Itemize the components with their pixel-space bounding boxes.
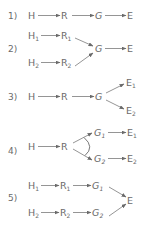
node-r: R bbox=[61, 91, 68, 102]
node-r1: R1 bbox=[61, 30, 72, 42]
node-h2: H2 bbox=[28, 207, 39, 219]
node-r2: R2 bbox=[60, 207, 71, 219]
node-g2: G2 bbox=[94, 153, 105, 165]
node-r: R bbox=[61, 10, 68, 21]
node-e: E bbox=[127, 10, 133, 21]
arrow-g1-e bbox=[109, 187, 126, 197]
node-r1: R1 bbox=[60, 180, 71, 192]
node-h2: H2 bbox=[28, 57, 39, 69]
node-r2: R2 bbox=[61, 57, 72, 69]
node-g: G bbox=[95, 10, 102, 21]
node-h: H bbox=[28, 10, 35, 21]
node-e1: E1 bbox=[127, 127, 137, 139]
row-2: 2) H1 R1 H2 R2 G E bbox=[8, 30, 133, 69]
node-g1: G1 bbox=[92, 180, 103, 192]
arrow-g-e2 bbox=[106, 100, 124, 109]
node-h: H bbox=[28, 91, 35, 102]
row-label: 4) bbox=[8, 146, 17, 156]
arrow-r2-g bbox=[75, 53, 93, 66]
row-3: 3) H R G E1 E2 bbox=[8, 77, 136, 117]
node-h: H bbox=[28, 141, 35, 152]
node-g1: G1 bbox=[94, 127, 105, 139]
node-g: G bbox=[95, 43, 102, 54]
node-g: G bbox=[95, 91, 102, 102]
row-label: 2) bbox=[8, 44, 17, 54]
arrow-g-e1 bbox=[106, 84, 124, 93]
row-1: 1) H R G E bbox=[8, 10, 133, 21]
arrow-g2-e bbox=[109, 204, 126, 216]
row-label: 1) bbox=[8, 11, 17, 21]
node-h1: H1 bbox=[28, 30, 39, 42]
node-r: R bbox=[61, 141, 68, 152]
node-e: E bbox=[127, 43, 133, 54]
row-label: 5) bbox=[8, 193, 17, 203]
node-e2: E2 bbox=[126, 105, 136, 117]
node-e2: E2 bbox=[127, 153, 137, 165]
node-h1: H1 bbox=[28, 180, 39, 192]
node-e: E bbox=[127, 195, 133, 206]
arrow-r-g1 bbox=[73, 133, 92, 143]
branch-arc bbox=[84, 138, 90, 156]
row-label: 3) bbox=[8, 92, 17, 102]
node-g2: G2 bbox=[92, 207, 103, 219]
row-4: 4) H R G1 E1 G2 E2 bbox=[8, 127, 137, 165]
pathway-diagram: 1) H R G E 2) H1 R1 H2 R2 G E 3) H R G E… bbox=[0, 0, 147, 230]
arrow-r1-g bbox=[75, 38, 93, 46]
row-5: 5) H1 R1 G1 H2 R2 G2 E bbox=[8, 180, 133, 219]
node-e1: E1 bbox=[126, 77, 136, 89]
